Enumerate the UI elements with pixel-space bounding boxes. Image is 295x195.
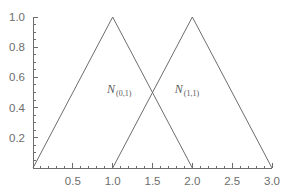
y-axis-tick-label: 0.6	[9, 71, 25, 83]
y-axis-tick-label: 0.4	[9, 102, 26, 114]
x-axis-tick-label: 2.0	[184, 175, 200, 187]
series-label-base: N	[174, 82, 184, 96]
triangular-membership-function-plot: 0.51.01.52.02.53.00.20.40.60.81.0 N(0,1)…	[0, 0, 295, 195]
chart-figure: 0.51.01.52.02.53.00.20.40.60.81.0 N(0,1)…	[0, 0, 295, 195]
x-axis-tick-label: 1.5	[145, 175, 161, 187]
y-axis-tick-label: 0.2	[9, 132, 25, 144]
plot-background	[0, 0, 295, 195]
y-axis-tick-label: 1.0	[9, 11, 25, 23]
x-axis-tick-label: 1.0	[105, 175, 121, 187]
x-axis-tick-label: 2.5	[224, 175, 240, 187]
y-axis-tick-label: 0.8	[9, 41, 25, 53]
series-label-base: N	[106, 82, 116, 96]
series-label-subscript: (1,1)	[184, 89, 200, 98]
x-axis-tick-label: 0.5	[65, 175, 81, 187]
x-axis-tick-label: 3.0	[264, 175, 280, 187]
series-label-subscript: (0,1)	[116, 89, 132, 98]
